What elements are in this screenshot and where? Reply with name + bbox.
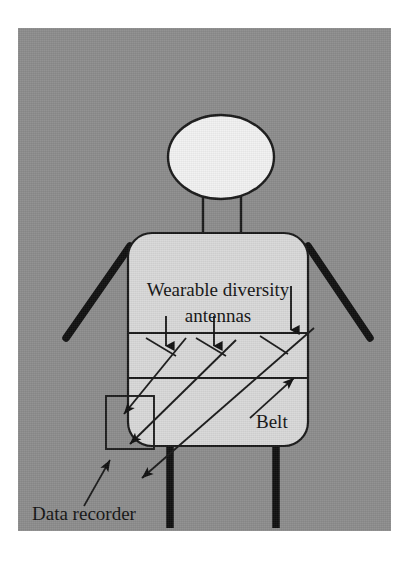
figure-root: Wearable diversity antennas Belt Data re… (0, 0, 411, 562)
left-arm (66, 246, 130, 338)
antennas-label-line1: Wearable diversity (147, 279, 290, 300)
head (168, 115, 274, 199)
diagram-panel: Wearable diversity antennas Belt Data re… (18, 28, 391, 531)
right-arm (308, 246, 370, 338)
neck (203, 194, 241, 236)
body-diagram-svg: Wearable diversity antennas Belt Data re… (18, 28, 391, 531)
antennas-label-line2: antennas (185, 305, 251, 326)
belt-label: Belt (256, 411, 288, 432)
data-recorder-label: Data recorder (32, 503, 137, 524)
data-recorder-leader-line (84, 460, 110, 506)
